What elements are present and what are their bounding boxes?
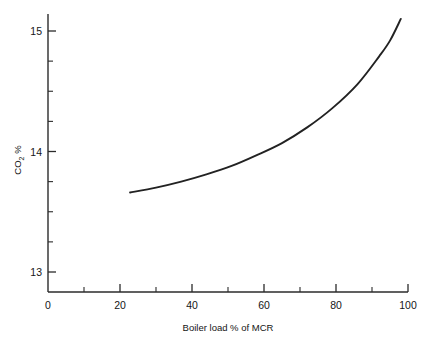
x-tick-label-100: 100 [399, 299, 417, 311]
x-tick-label-20: 20 [114, 299, 126, 311]
y-axis-tick-labels: 131415 [30, 25, 42, 278]
x-axis-major-ticks [120, 284, 408, 292]
y-axis-title-main: CO [12, 160, 23, 174]
y-tick-label-13: 13 [30, 266, 42, 278]
y-tick-label-15: 15 [30, 25, 42, 37]
y-axis-major-ticks [48, 31, 56, 272]
svg-text:CO2 %: CO2 % [12, 145, 25, 175]
x-tick-label-80: 80 [330, 299, 342, 311]
x-axis: 020406080100 [45, 284, 417, 311]
x-tick-label-40: 40 [186, 299, 198, 311]
data-curve [130, 19, 401, 193]
x-tick-label-60: 60 [258, 299, 270, 311]
x-axis-minor-ticks [84, 287, 372, 292]
y-axis: 131415 [30, 14, 56, 292]
y-tick-label-14: 14 [30, 146, 42, 158]
y-axis-title-unit: % [12, 145, 23, 157]
chart-container: 131415 020406080100 Boiler load % of MCR… [0, 0, 426, 342]
x-axis-title: Boiler load % of MCR [183, 322, 274, 333]
x-axis-tick-labels: 020406080100 [45, 299, 417, 311]
y-axis-title: CO2 % [12, 145, 25, 175]
x-tick-label-0: 0 [45, 299, 51, 311]
co2-vs-boiler-load-chart: 131415 020406080100 Boiler load % of MCR… [0, 0, 426, 342]
